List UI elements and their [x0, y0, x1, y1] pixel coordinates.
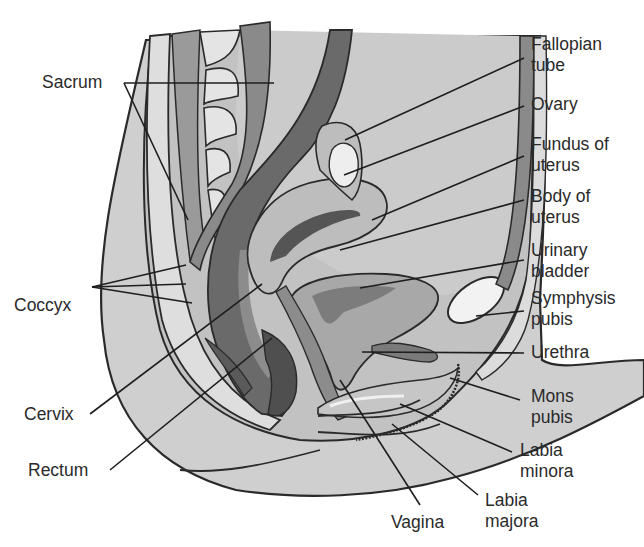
label-text: Urinary — [531, 240, 589, 261]
label-text: Ovary — [531, 94, 578, 115]
label-urethra: Urethra — [531, 342, 589, 363]
label-text: Cervix — [24, 404, 74, 425]
label-symphysis-pubis: Symphysis pubis — [531, 288, 616, 330]
label-labia-minora: Labia minora — [520, 440, 574, 482]
label-labia-majora: Labia majora — [485, 490, 539, 532]
label-coccyx: Coccyx — [14, 295, 71, 316]
label-fallopian-tube: Fallopian tube — [531, 34, 602, 76]
label-text: Labia — [520, 440, 574, 461]
label-text: pubis — [531, 407, 574, 428]
label-text: Vagina — [391, 512, 444, 533]
label-cervix: Cervix — [24, 404, 74, 425]
label-text: Urethra — [531, 342, 589, 363]
label-vagina: Vagina — [391, 512, 444, 533]
label-text: tube — [531, 55, 602, 76]
label-text: Body of — [531, 186, 590, 207]
label-mons-pubis: Mons pubis — [531, 386, 574, 428]
label-ovary: Ovary — [531, 94, 578, 115]
label-text: pubis — [531, 309, 616, 330]
label-text: Rectum — [28, 460, 88, 481]
label-text: Sacrum — [42, 72, 102, 93]
label-text: uterus — [531, 207, 590, 228]
label-text: minora — [520, 461, 574, 482]
label-text: Fallopian — [531, 34, 602, 55]
label-rectum: Rectum — [28, 460, 88, 481]
label-sacrum: Sacrum — [42, 72, 102, 93]
label-text: bladder — [531, 261, 589, 282]
label-text: Symphysis — [531, 288, 616, 309]
label-text: Fundus of — [531, 134, 609, 155]
ovary-shape — [329, 143, 358, 187]
label-text: uterus — [531, 155, 609, 176]
label-text: Labia — [485, 490, 539, 511]
label-text: majora — [485, 511, 539, 532]
label-body-of-uterus: Body of uterus — [531, 186, 590, 228]
label-text: Coccyx — [14, 295, 71, 316]
label-fundus-of-uterus: Fundus of uterus — [531, 134, 609, 176]
label-text: Mons — [531, 386, 574, 407]
label-urinary-bladder: Urinary bladder — [531, 240, 589, 282]
